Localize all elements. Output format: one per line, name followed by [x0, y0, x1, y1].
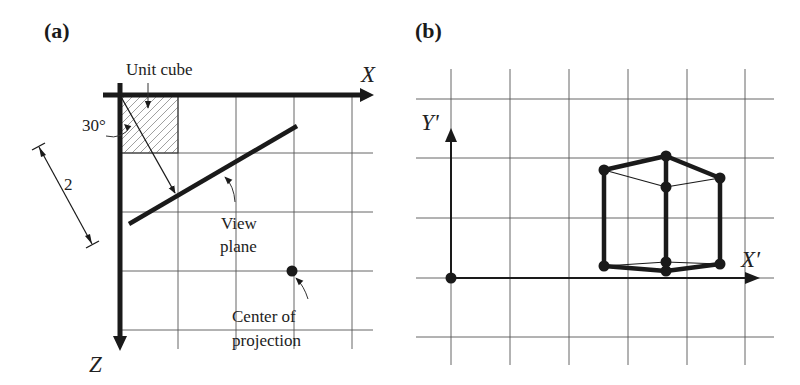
cube-vertex	[599, 261, 610, 272]
cube-vertex	[661, 266, 672, 277]
x-axis-label: X	[360, 62, 376, 87]
panel-b-label: (b)	[415, 18, 442, 43]
panel-a: (a)	[32, 18, 376, 377]
cube-vertex	[599, 165, 610, 176]
projected-cube	[599, 151, 726, 277]
distance-arrow-bottom-icon	[85, 234, 92, 244]
view-plane-label-line1: View	[221, 214, 258, 233]
z-axis-arrow-icon	[113, 336, 127, 351]
projection-direction-line	[120, 95, 175, 193]
x-prime-axis-label: X′	[740, 247, 761, 272]
x-axis-arrow-icon	[360, 88, 374, 102]
view-plane-label-line2: plane	[220, 237, 257, 256]
cube-vertex	[715, 259, 726, 270]
origin-point	[446, 273, 457, 284]
y-prime-axis-arrow-icon	[445, 128, 457, 142]
projection-figure: (a)	[0, 0, 800, 385]
distance-arrow-top-icon	[39, 147, 46, 157]
panel-b: (b) Y' X′	[415, 18, 774, 365]
z-axis-label: Z	[89, 352, 102, 377]
angle-label: 30°	[82, 116, 106, 135]
center-of-projection-point	[287, 266, 298, 277]
unit-cube-label: Unit cube	[126, 60, 193, 79]
cube-vertex	[661, 151, 672, 162]
y-prime-axis-label: Y'	[421, 110, 440, 135]
x-prime-axis-arrow-icon	[745, 272, 760, 284]
distance-marker: 2	[32, 143, 99, 248]
center-of-projection-label-line1: Center of	[232, 307, 296, 326]
view-plane-leader	[225, 177, 235, 202]
cube-vertex	[661, 182, 672, 193]
distance-label: 2	[64, 175, 73, 194]
center-of-projection-label-line2: projection	[232, 331, 301, 350]
center-of-projection-leader	[296, 278, 308, 299]
view-plane-line	[129, 126, 297, 224]
cube-vertex	[715, 173, 726, 184]
panel-a-label: (a)	[44, 18, 70, 43]
